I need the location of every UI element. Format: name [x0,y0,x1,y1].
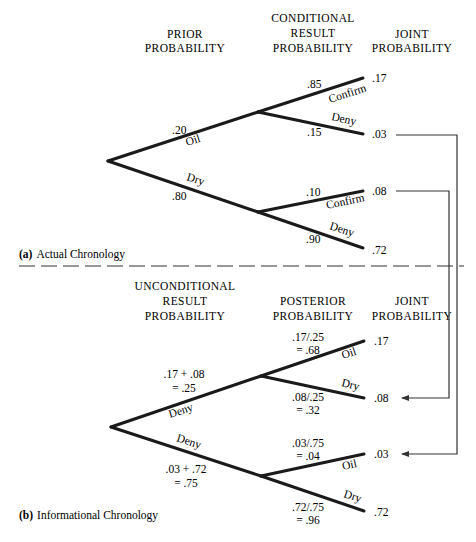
svg-text:UNCONDITIONAL: UNCONDITIONAL [134,280,235,292]
joint-a-dry-confirm: .08 [372,185,387,197]
result-confirm-dry: = .32 [296,404,320,416]
calc-confirm: .17 + .08 [164,368,205,380]
prob-oil-deny: .15 [307,126,322,138]
result-deny: = .75 [174,477,198,489]
branch-dry [108,161,258,212]
svg-text:RESULT: RESULT [163,295,208,307]
label-deny-dry: Dry [342,487,363,505]
joint-a-dry-deny: .72 [372,244,387,256]
header-unconditional-result-probability: UNCONDITIONAL RESULT PROBABILITY [134,280,235,322]
calc-confirm-dry: .08/.25 [292,391,324,403]
svg-text:PROBABILITY: PROBABILITY [145,310,226,322]
svg-text:PRIOR: PRIOR [167,28,203,40]
header-joint-probability-a: JOINT PROBABILITY [372,28,453,54]
calc-confirm-oil: .17/.25 [292,331,324,343]
label-confirm: Deny [167,401,195,421]
label-dry-confirm: Confirm [325,191,366,211]
joint-b-deny-oil: .03 [374,448,389,460]
svg-text:RESULT: RESULT [291,27,336,39]
prob-dry-confirm: .10 [306,186,321,198]
result-confirm: = .25 [172,382,196,394]
caption-b: (b)Informational Chronology [19,509,158,522]
calc-deny: .03 + .72 [166,463,207,475]
svg-text:JOINT: JOINT [395,295,429,307]
svg-text:PROBABILITY: PROBABILITY [273,42,354,54]
header-conditional-result-probability: CONDITIONAL RESULT PROBABILITY [271,12,355,54]
header-prior-probability: PRIOR PROBABILITY [145,28,226,54]
prob-oil-confirm: .85 [307,78,322,90]
tree-a-branches [108,78,363,248]
label-oil-confirm: Confirm [327,81,368,104]
result-deny-dry: = .96 [296,514,320,526]
tree-b-branches [111,341,364,511]
label-confirm-dry: Dry [340,376,361,393]
label-dry: Dry [185,170,206,188]
prob-dry: .80 [172,190,187,202]
joint-b-deny-dry: .72 [374,506,389,518]
joint-b-confirm-dry: .08 [374,392,389,404]
joint-a-oil-confirm: .17 [372,72,387,84]
calc-deny-dry: .72/.75 [292,501,324,513]
header-joint-probability-b: JOINT PROBABILITY [372,295,453,322]
svg-text:PROBABILITY: PROBABILITY [372,310,453,322]
result-deny-oil: = .04 [296,450,320,462]
header-posterior-probability: POSTERIOR PROBABILITY [273,295,354,322]
caption-a: (a)Actual Chronology [19,248,125,261]
label-oil-deny: Deny [330,110,357,128]
result-confirm-oil: = .68 [296,344,320,356]
decision-tree-diagram: PRIOR PROBABILITY CONDITIONAL RESULT PRO… [0,0,476,542]
svg-text:PROBABILITY: PROBABILITY [145,42,226,54]
svg-text:CONDITIONAL: CONDITIONAL [271,12,355,24]
svg-text:PROBABILITY: PROBABILITY [372,42,453,54]
calc-deny-oil: .03/.75 [292,437,324,449]
svg-text:JOINT: JOINT [395,28,429,40]
joint-a-oil-deny: .03 [372,128,387,140]
prob-oil: .20 [172,124,187,136]
svg-text:POSTERIOR: POSTERIOR [280,295,346,307]
prob-dry-deny: .90 [306,233,321,245]
label-deny-oil: Oil [341,457,358,472]
svg-text:PROBABILITY: PROBABILITY [273,310,354,322]
joint-b-confirm-oil: .17 [374,335,389,347]
